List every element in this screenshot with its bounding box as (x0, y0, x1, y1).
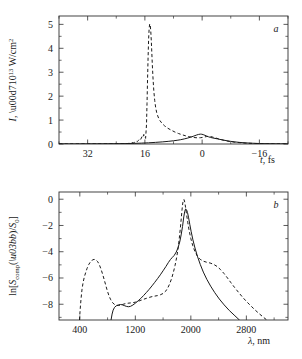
y-tick-label: −4 (42, 246, 53, 257)
y-tick-label: 4 (48, 43, 53, 54)
panel-a-ticks (59, 16, 288, 144)
y-tick-label: 5 (48, 19, 53, 30)
curve-dashed (59, 24, 288, 144)
figure-svg: 32160−16012345 t, fs I, \u00d71013 W/cm2… (0, 0, 302, 359)
panel-a-tick-labels: 32160−16012345 (48, 19, 267, 159)
panel-b-curves (79, 199, 266, 320)
y-tick-label: 3 (48, 67, 53, 78)
panel-a-yaxis-title: I, \u00d71013 W/cm2 (7, 39, 18, 123)
y-tick-label: −6 (42, 272, 53, 283)
panel-a-frame (59, 16, 288, 144)
panel-a-xaxis-unit: fs (268, 154, 275, 165)
panel-b-xaxis-unit: nm (257, 335, 270, 346)
y-tick-label: 1 (48, 115, 53, 126)
x-tick-label: 1200 (125, 324, 145, 335)
y-tick-label: −2 (42, 220, 53, 231)
panel-b-label: b (274, 199, 279, 210)
x-tick-label: 2800 (236, 324, 256, 335)
panel-b-tick-labels: 4001200200028000−2−4−6−8 (42, 194, 256, 335)
panel-a-curves (59, 24, 288, 144)
y-tick-label: 0 (48, 194, 53, 205)
x-tick-label: 32 (83, 148, 93, 159)
panel-a: 32160−16012345 t, fs I, \u00d71013 W/cm2… (7, 16, 288, 165)
y-tick-label: 2 (48, 91, 53, 102)
curve-dashed (79, 199, 266, 320)
panel-b-xaxis-title: λ, nm (247, 335, 270, 346)
panel-a-xaxis-title: t, fs (260, 154, 275, 165)
y-tick-label: −8 (42, 299, 53, 310)
x-tick-label: 400 (72, 324, 87, 335)
y-tick-label: 0 (48, 139, 53, 150)
figure-container: 32160−16012345 t, fs I, \u00d71013 W/cm2… (0, 0, 302, 359)
x-tick-label: 16 (140, 148, 150, 159)
x-tick-label: 0 (200, 148, 205, 159)
panel-a-label: a (274, 23, 279, 34)
x-tick-label: 2000 (181, 324, 201, 335)
panel-b: 4001200200028000−2−4−6−8 λ, nm ln[Scomp(… (7, 192, 288, 346)
panel-b-yaxis-title: ln[Scomp(\u03bb)/S0] (7, 216, 20, 296)
panel-a-axes-frame (59, 16, 288, 144)
